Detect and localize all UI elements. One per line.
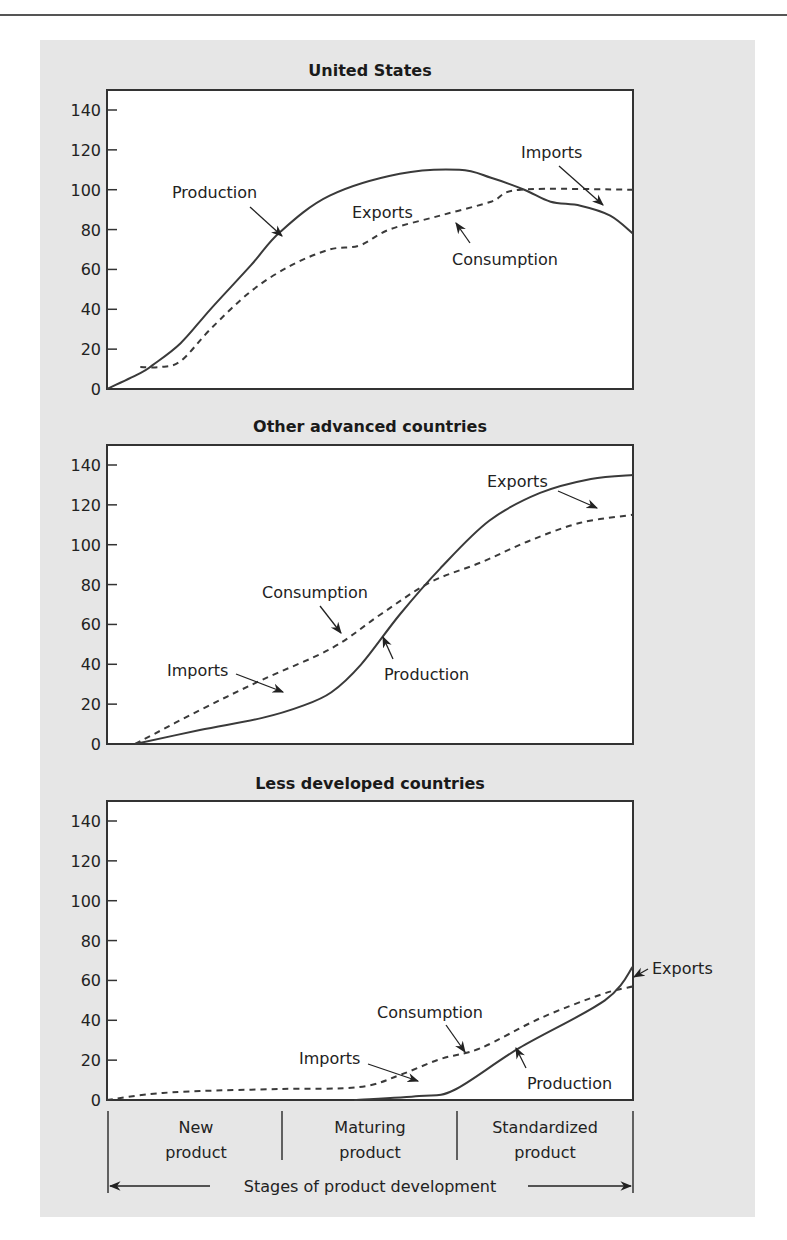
stage-standardized-line2: product [514,1143,576,1162]
y-tick-label: 140 [70,456,101,475]
y-tick-label: 40 [81,655,101,674]
annotation-exports: Exports [487,472,548,491]
y-tick-label: 120 [70,496,101,515]
y-tick-label: 140 [70,812,101,831]
y-tick-label: 120 [70,141,101,160]
y-tick-label: 100 [70,536,101,555]
y-tick-label: 80 [81,932,101,951]
annotation-consumption: Consumption [377,1003,483,1022]
stage-maturing-line1: Maturing [334,1118,405,1137]
annotation-imports: Imports [299,1049,360,1068]
chart-other-advanced-countries: Other advanced countries 020406080100120… [70,417,633,754]
annotation-production: Production [172,183,257,202]
annotation-production: Production [384,665,469,684]
plot-area [107,90,633,389]
y-tick-label: 60 [81,971,101,990]
chart-title: United States [308,61,431,80]
chart-title: Less developed countries [255,774,485,793]
y-tick-label: 20 [81,695,101,714]
product-life-cycle-figure: United States 020406080100120140 Product… [0,0,787,1240]
y-tick-label: 40 [81,300,101,319]
y-tick-label: 100 [70,892,101,911]
y-tick-label: 120 [70,852,101,871]
y-tick-label: 100 [70,181,101,200]
y-tick-label: 0 [91,380,101,399]
annotation-consumption: Consumption [452,250,558,269]
stage-new-line1: New [179,1118,214,1137]
annotation-exports: Exports [652,959,713,978]
stage-standardized-line1: Standardized [492,1118,598,1137]
annotation-consumption: Consumption [262,583,368,602]
y-tick-label: 20 [81,340,101,359]
plot-area [107,445,633,744]
y-tick-label: 0 [91,735,101,754]
y-tick-label: 60 [81,260,101,279]
chart-title: Other advanced countries [253,417,487,436]
stage-maturing-line2: product [339,1143,401,1162]
stages-axis: New product Maturing product Standardize… [108,1111,633,1196]
y-tick-label: 0 [91,1091,101,1110]
annotation-imports: Imports [521,143,582,162]
y-tick-label: 80 [81,221,101,240]
arrow-icon [634,969,648,977]
stages-axis-label: Stages of product development [244,1177,496,1196]
chart-less-developed-countries: Less developed countries 020406080100120… [70,774,712,1110]
y-tick-label: 80 [81,576,101,595]
annotation-exports: Exports [352,203,413,222]
plot-area [107,801,633,1100]
y-tick-label: 140 [70,101,101,120]
y-tick-label: 60 [81,615,101,634]
chart-united-states: United States 020406080100120140 Product… [70,61,633,399]
y-tick-label: 40 [81,1011,101,1030]
annotation-production: Production [527,1074,612,1093]
annotation-imports: Imports [167,661,228,680]
y-tick-label: 20 [81,1051,101,1070]
stage-new-line2: product [165,1143,227,1162]
